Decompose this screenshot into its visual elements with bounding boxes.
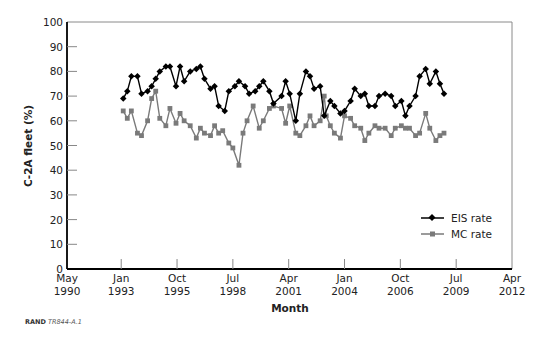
y-tick-label: 50 <box>50 140 63 152</box>
data-point <box>366 103 373 110</box>
data-point <box>286 90 293 97</box>
x-tick-label-month: Jan <box>335 272 352 284</box>
data-point <box>388 93 395 100</box>
square-marker-icon <box>430 232 435 237</box>
data-point <box>125 116 130 121</box>
data-point <box>427 80 434 87</box>
data-point <box>149 96 154 101</box>
data-point <box>389 133 394 138</box>
data-point <box>297 133 302 138</box>
x-tick-label-year: 1990 <box>54 285 81 297</box>
legend-label-mc: MC rate <box>451 228 492 240</box>
data-point <box>338 136 343 141</box>
data-point <box>366 131 371 136</box>
diamond-marker-icon <box>428 214 435 221</box>
data-point <box>441 90 448 97</box>
line-chart: 0102030405060708090100 May1990Jan1993Oct… <box>0 0 546 340</box>
data-point <box>177 63 184 70</box>
data-point <box>153 89 158 94</box>
data-point <box>407 126 412 131</box>
legend: EIS rate MC rate <box>421 212 492 240</box>
data-point <box>167 63 174 70</box>
data-point <box>266 88 273 95</box>
data-point <box>121 109 126 114</box>
data-point <box>402 113 409 120</box>
data-point <box>318 118 323 123</box>
y-tick-label: 30 <box>50 189 63 201</box>
x-tick-label-year: 2006 <box>387 285 414 297</box>
data-point <box>182 118 187 123</box>
y-axis-title: C-2A fleet (%) <box>22 105 34 187</box>
data-point <box>442 131 447 136</box>
data-point <box>393 126 398 131</box>
data-point <box>178 111 183 116</box>
data-point <box>139 133 144 138</box>
data-point <box>347 98 354 105</box>
data-point <box>383 126 388 131</box>
data-point <box>168 106 173 111</box>
data-point <box>322 94 327 99</box>
series-layer <box>120 63 447 167</box>
data-point <box>311 85 318 92</box>
data-point <box>237 163 242 168</box>
data-point <box>188 123 193 128</box>
y-tick-label: 90 <box>50 41 63 53</box>
data-point <box>257 126 262 131</box>
data-point <box>261 118 266 123</box>
y-tick-label: 60 <box>50 115 63 127</box>
x-tick-label-month: Jul <box>226 272 240 284</box>
x-tick-label-year: 2009 <box>443 285 470 297</box>
series-mc-rate <box>121 89 447 168</box>
figure-credit: RAND TR844-A.1 <box>25 318 82 326</box>
data-point <box>297 90 304 97</box>
data-point <box>308 113 313 118</box>
x-tick-label-month: Apr <box>503 272 522 284</box>
data-point <box>423 111 428 116</box>
data-point <box>187 68 194 75</box>
x-tick-label-month: May <box>56 272 78 284</box>
data-point <box>282 78 289 85</box>
data-point <box>212 123 217 128</box>
data-point <box>128 73 135 80</box>
credit-org: RAND <box>25 318 46 326</box>
data-point <box>145 118 150 123</box>
x-tick-label-month: Oct <box>391 272 409 284</box>
y-tick-label: 40 <box>50 164 63 176</box>
data-point <box>352 123 357 128</box>
x-tick-label-year: 1993 <box>108 285 135 297</box>
data-point <box>433 68 440 75</box>
data-point <box>348 116 353 121</box>
data-point <box>181 78 188 85</box>
data-point <box>283 121 288 126</box>
data-point <box>208 133 213 138</box>
data-point <box>372 103 379 110</box>
data-point <box>312 123 317 128</box>
data-point <box>245 118 250 123</box>
legend-item-eis: EIS rate <box>421 212 492 224</box>
data-point <box>129 109 134 114</box>
data-point <box>362 138 367 143</box>
x-tick-label-month: Oct <box>168 272 186 284</box>
data-point <box>406 103 413 110</box>
x-tick-label-year: 2004 <box>331 285 358 297</box>
data-point <box>138 90 145 97</box>
x-tick-label-month: Jan <box>112 272 129 284</box>
data-point <box>376 93 383 100</box>
data-point <box>124 88 131 95</box>
data-point <box>246 90 253 97</box>
data-point <box>317 83 324 90</box>
data-point <box>251 104 256 109</box>
data-point <box>433 138 438 143</box>
data-point <box>134 73 141 80</box>
data-point <box>230 146 235 151</box>
data-point <box>174 121 179 126</box>
legend-label-eis: EIS rate <box>451 212 492 224</box>
data-point <box>226 141 231 146</box>
x-tick-label-year: 2012 <box>499 285 526 297</box>
x-tick-label-year: 1995 <box>164 285 191 297</box>
data-point <box>201 76 208 83</box>
data-point <box>202 131 207 136</box>
y-tick-label: 20 <box>50 214 63 226</box>
data-point <box>332 131 337 136</box>
data-point <box>220 128 225 133</box>
